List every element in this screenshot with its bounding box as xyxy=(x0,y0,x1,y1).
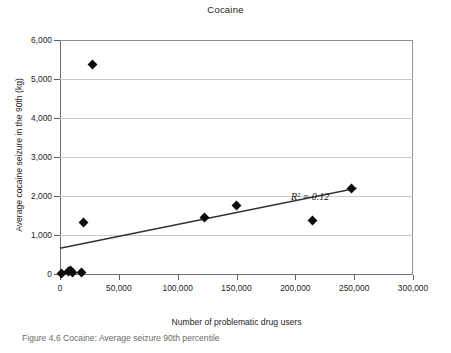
x-tick-mark xyxy=(354,275,355,280)
y-tick-label: 6,000 xyxy=(4,35,52,45)
r-squared-annotation: R² = 0.12 xyxy=(291,191,329,202)
chart-title: Cocaine xyxy=(0,4,451,15)
y-tick-label: 3,000 xyxy=(4,152,52,162)
trendline xyxy=(60,40,413,274)
figure-caption: Figure 4.6 Cocaine: Average seizure 90th… xyxy=(22,333,442,343)
x-tick-mark xyxy=(178,275,179,280)
y-tick-label: 4,000 xyxy=(4,113,52,123)
x-axis-title: Number of problematic drug users xyxy=(60,317,413,327)
x-tick-mark xyxy=(295,275,296,280)
plot-area xyxy=(60,40,413,274)
y-tick-label: 5,000 xyxy=(4,74,52,84)
x-tick-mark xyxy=(413,275,414,280)
y-tick-label: 1,000 xyxy=(4,230,52,240)
x-tick-mark xyxy=(119,275,120,280)
y-axis-ticks: 01,0002,0003,0004,0005,0006,000 xyxy=(0,0,52,353)
figure-container: Cocaine Average cocaine seizure in the 9… xyxy=(0,0,451,353)
x-tick-mark xyxy=(237,275,238,280)
y-tick-label: 2,000 xyxy=(4,191,52,201)
y-tick-label: 0 xyxy=(4,269,52,279)
x-tick-label: 300,000 xyxy=(378,283,448,293)
